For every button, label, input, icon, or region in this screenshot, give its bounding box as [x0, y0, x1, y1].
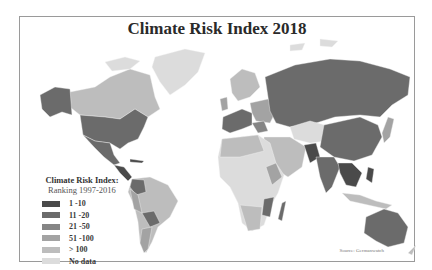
- region-western-europe: [222, 109, 252, 133]
- legend-item-rank-over-100: > 100: [32, 244, 132, 256]
- region-scandinavia: [230, 69, 260, 101]
- region-greenland: [152, 49, 205, 95]
- region-china: [320, 117, 382, 161]
- legend-item-rank-1-10: 1 -10: [32, 198, 132, 210]
- legend-label: 11 -20: [69, 211, 89, 220]
- map-frame: Climate Risk Index 2018: [19, 16, 415, 262]
- legend-label: 1 -10: [69, 199, 86, 208]
- legend-item-rank-11-20: 11 -20: [32, 210, 132, 222]
- region-philippines: [366, 167, 374, 183]
- region-myanmar-vietnam: [338, 163, 362, 187]
- legend-label: No data: [69, 257, 96, 266]
- legend-swatch: [42, 212, 60, 218]
- region-canada: [70, 69, 160, 119]
- region-uk: [220, 97, 228, 111]
- legend-label: 21 -50: [69, 222, 90, 231]
- legend-title: Climate Risk Index:: [32, 175, 132, 185]
- legend-swatch: [42, 235, 60, 241]
- legend-swatch: [42, 247, 60, 253]
- map-legend: Climate Risk Index: Ranking 1997-2016 1 …: [32, 175, 132, 267]
- legend-swatch: [42, 258, 60, 264]
- legend-swatch: [42, 201, 60, 207]
- region-alaska: [40, 87, 72, 117]
- region-indonesia: [342, 193, 392, 209]
- legend-item-rank-21-50: 21 -50: [32, 221, 132, 233]
- region-madagascar: [278, 201, 286, 221]
- region-russia: [265, 59, 410, 127]
- source-credit: Source: Germanwatch: [339, 248, 384, 253]
- region-australia: [364, 209, 408, 247]
- region-mozambique: [262, 197, 274, 217]
- legend-item-no-data: No data: [32, 256, 132, 268]
- legend-subtitle: Ranking 1997-2016: [32, 185, 132, 195]
- region-india: [316, 157, 340, 193]
- legend-label: 51 -100: [69, 234, 94, 243]
- legend-label: > 100: [69, 245, 88, 254]
- legend-swatch: [42, 224, 60, 230]
- legend-item-rank-51-100: 51 -100: [32, 233, 132, 245]
- region-balkans: [252, 121, 268, 133]
- region-japan: [382, 117, 394, 143]
